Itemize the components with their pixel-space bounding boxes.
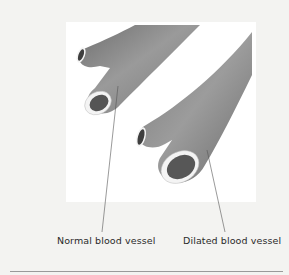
bottom-divider xyxy=(10,271,283,272)
dilated-blood-vessel-label: Dilated blood vessel xyxy=(183,235,281,246)
normal-blood-vessel-label: Normal blood vessel xyxy=(57,235,156,246)
blood-vessel-illustration xyxy=(0,0,289,275)
dilated-leader-line xyxy=(207,150,225,232)
